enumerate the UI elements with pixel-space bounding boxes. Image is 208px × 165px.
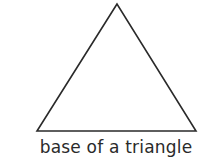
triangle-shape — [37, 4, 196, 131]
caption: base of a triangle — [24, 137, 208, 157]
